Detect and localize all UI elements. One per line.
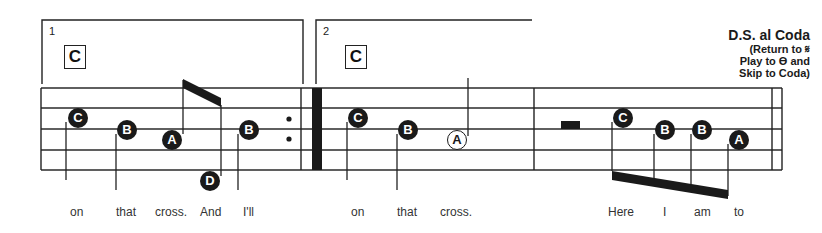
lyric: And — [200, 205, 221, 219]
lyric: cross. — [155, 205, 187, 219]
note-head: C — [68, 108, 88, 128]
note-head: C — [613, 108, 633, 128]
lyric: Here — [608, 205, 634, 219]
repeat-dot — [286, 116, 291, 121]
beam-measure-1 — [183, 79, 221, 107]
beam-measure-3 — [612, 171, 728, 199]
note-head: B — [239, 120, 259, 140]
lyric: am — [694, 205, 711, 219]
ending-2-number: 2 — [323, 25, 329, 37]
lyric: cross. — [440, 205, 472, 219]
note-head: B — [398, 120, 418, 140]
chord-symbol-ending-2: C — [345, 45, 367, 69]
lyric: on — [70, 205, 83, 219]
note-head-open: A — [447, 130, 467, 150]
note-head: B — [117, 120, 137, 140]
note-head: A — [729, 130, 749, 150]
note-head: A — [162, 130, 182, 150]
note-head: C — [348, 108, 368, 128]
lyric: that — [397, 205, 417, 219]
thick-repeat-barline — [312, 88, 322, 170]
lyric: that — [116, 205, 136, 219]
ds-al-coda-instruction: D.S. al Coda (Return to 𝄋 Play to ϴ and … — [728, 27, 810, 79]
ending-1-number: 1 — [49, 25, 55, 37]
ds-title: D.S. al Coda — [728, 27, 810, 43]
note-head: B — [692, 120, 712, 140]
ds-line-3: Skip to Coda) — [728, 67, 810, 79]
lyric: I — [663, 205, 666, 219]
music-staff — [0, 0, 822, 233]
chord-symbol-ending-1: C — [64, 45, 86, 69]
lyric: I'll — [243, 205, 254, 219]
ds-line-2: Play to ϴ and — [728, 55, 810, 67]
ds-line-1: (Return to 𝄋 — [728, 43, 810, 55]
lyric: on — [351, 205, 364, 219]
note-head: B — [655, 120, 675, 140]
note-head: D — [200, 171, 220, 191]
half-rest — [561, 121, 580, 129]
repeat-dot — [286, 136, 291, 141]
lyric: to — [734, 205, 744, 219]
